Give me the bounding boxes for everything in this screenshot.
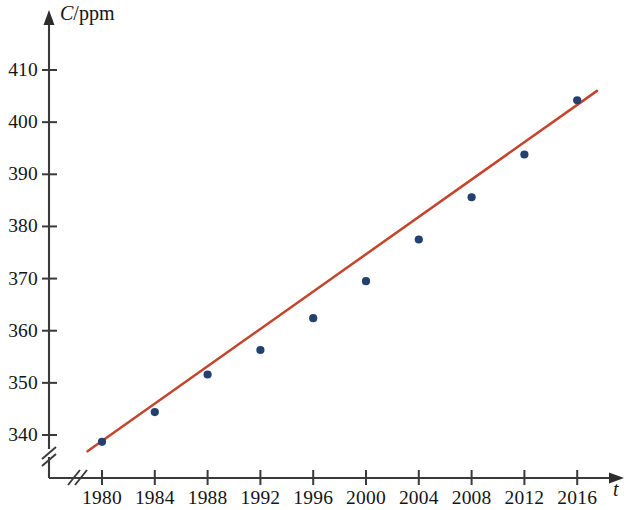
data-point xyxy=(204,370,212,378)
data-point xyxy=(415,235,423,243)
x-axis-tick-label: 2004 xyxy=(389,487,449,509)
chart-plot-area xyxy=(0,0,637,510)
y-axis-tick-label: 370 xyxy=(0,268,38,290)
x-axis-tick-label: 1980 xyxy=(72,487,132,509)
y-axis-tick-label: 380 xyxy=(0,215,38,237)
regression-line xyxy=(87,91,597,451)
y-axis-tick-label: 340 xyxy=(0,424,38,446)
y-axis-tick-label: 390 xyxy=(0,163,38,185)
x-axis-tick-label: 1996 xyxy=(283,487,343,509)
y-axis-tick-label: 350 xyxy=(0,372,38,394)
x-axis-tick-label: 2016 xyxy=(547,487,607,509)
data-point xyxy=(573,96,581,104)
x-axis-tick-label: 2012 xyxy=(494,487,554,509)
data-point xyxy=(256,346,264,354)
y-axis-tick-label: 410 xyxy=(0,59,38,81)
x-axis-title-label: t xyxy=(613,478,619,500)
x-axis-tick-label: 1988 xyxy=(178,487,238,509)
data-point xyxy=(362,277,370,285)
y-axis-tick-label: 360 xyxy=(0,320,38,342)
regression-line-segment xyxy=(87,91,597,451)
y-axis-title: C/ppm xyxy=(60,2,114,25)
data-point xyxy=(468,193,476,201)
chart-container: C/ppm t 340350360370380390400410 1980198… xyxy=(0,0,637,510)
x-axis-tick-label: 1984 xyxy=(125,487,185,509)
y-axis-tick-label: 400 xyxy=(0,111,38,133)
y-axis-title-unit: /ppm xyxy=(73,2,114,24)
data-point xyxy=(520,150,528,158)
data-point xyxy=(151,408,159,416)
x-axis-tick-label: 2008 xyxy=(442,487,502,509)
data-point xyxy=(309,314,317,322)
x-axis-tick-label: 1992 xyxy=(230,487,290,509)
y-axis-title-variable: C xyxy=(60,2,73,24)
y-axis-arrow-icon xyxy=(44,10,55,25)
x-axis-title: t xyxy=(613,478,619,501)
x-axis-tick-label: 2000 xyxy=(336,487,396,509)
data-point xyxy=(98,438,106,446)
